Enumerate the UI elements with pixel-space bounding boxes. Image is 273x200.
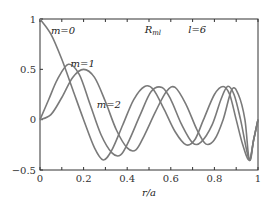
annotation-m0: m=0 bbox=[51, 25, 76, 36]
annotation-m2: m=2 bbox=[97, 99, 121, 110]
x-axis-label: r/a bbox=[142, 187, 156, 198]
annotation-l6: l=6 bbox=[188, 24, 207, 35]
annotations: Rmll=6m=0m=1m=2 bbox=[51, 24, 207, 109]
x-tick-label: 0.8 bbox=[206, 173, 222, 184]
x-tick-label: 0 bbox=[37, 173, 43, 184]
y-tick-label: 0.5 bbox=[20, 64, 36, 75]
data-curves bbox=[40, 19, 258, 160]
x-tick-label: 0.6 bbox=[163, 173, 179, 184]
x-tick-label: 0.2 bbox=[76, 173, 92, 184]
y-axis-ticks: −0.500.51 bbox=[12, 14, 43, 176]
y-tick-label: 0 bbox=[30, 114, 36, 125]
y-tick-label: −0.5 bbox=[12, 165, 36, 176]
curve-m2 bbox=[40, 69, 258, 160]
annotation-m1: m=1 bbox=[71, 58, 95, 69]
annotation-rml: Rml bbox=[144, 24, 161, 37]
y-tick-label: 1 bbox=[30, 14, 36, 25]
x-tick-label: 0.4 bbox=[119, 173, 135, 184]
x-tick-label: 1 bbox=[255, 173, 261, 184]
radial-function-chart: 00.20.40.60.81 −0.500.51 Rmll=6m=0m=1m=2… bbox=[0, 0, 273, 200]
